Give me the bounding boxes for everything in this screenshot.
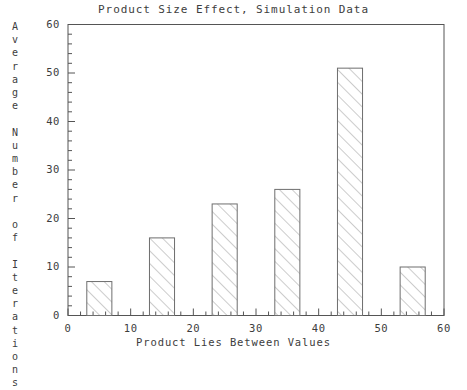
x-tick-label: 40 [306,322,332,334]
x-tick-label: 10 [118,322,144,334]
bar [87,282,112,316]
plot-frame [68,25,444,316]
y-tick-label: 20 [34,212,60,224]
y-tick-label: 30 [34,163,60,175]
y-tick-label: 40 [34,115,60,127]
y-tick-label: 0 [34,309,60,321]
x-tick-label: 60 [431,322,457,334]
y-tick-label: 60 [34,18,60,30]
bar-series [87,68,425,315]
y-tick-label: 50 [34,66,60,78]
x-tick-label: 20 [180,322,206,334]
bar [400,267,425,316]
y-axis-ticks [68,25,75,316]
x-tick-label: 0 [55,322,81,334]
x-tick-label: 30 [243,322,269,334]
bar [275,189,300,315]
bar [149,238,174,316]
bar [337,68,362,315]
x-tick-label: 50 [368,322,394,334]
x-axis-ticks [68,309,444,316]
bar [212,204,237,316]
y-tick-label: 10 [34,260,60,272]
